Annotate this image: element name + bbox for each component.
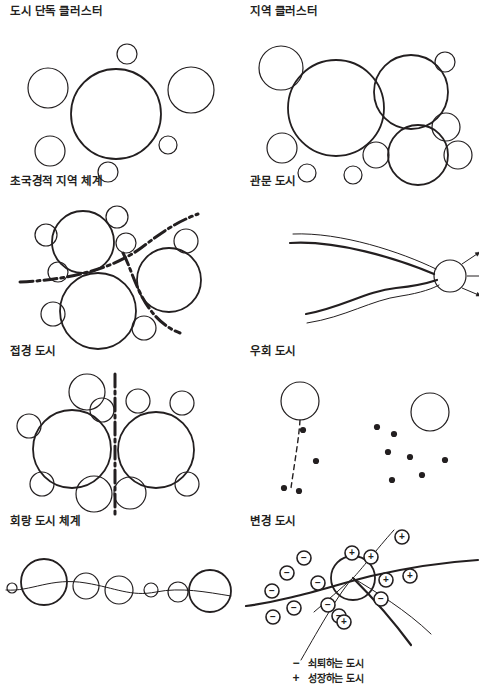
panel-transboundary-regional-system: 초국경적 지역 체계 — [0, 170, 239, 343]
sign-symbol-declining: − — [269, 585, 275, 596]
city-circle-node — [168, 582, 188, 602]
sign-symbol-growing: + — [341, 616, 347, 627]
panel-diagram — [0, 510, 239, 683]
sign-symbol-declining: − — [284, 567, 290, 578]
city-circle-gateway-node — [434, 260, 466, 292]
legend-item: −쇠퇴하는 도시 — [288, 655, 448, 670]
city-circle-primary-city — [137, 248, 201, 312]
city-circle-satellite — [175, 472, 199, 496]
city-circle-primary-city — [52, 211, 114, 273]
city-circle-satellite — [170, 391, 194, 415]
city-circle-satellite — [174, 229, 198, 253]
city-circle-satellite — [126, 389, 150, 413]
settlement-dot — [374, 424, 380, 430]
panel-diagram — [0, 0, 239, 173]
settlement-dot — [281, 485, 287, 491]
settlement-dot — [296, 488, 302, 494]
city-circle-city — [411, 393, 449, 431]
settlement-dot — [313, 458, 319, 464]
panel-corridor-city-system: 회랑 도시 체계 — [0, 510, 239, 683]
city-circle-satellite — [28, 68, 68, 108]
sign-symbol-declining: − — [301, 552, 307, 563]
settlement-dot — [391, 431, 397, 437]
panel-gateway-city: 관문 도시 — [240, 170, 479, 343]
city-circle-satellite — [432, 113, 460, 141]
panel-diagram — [240, 340, 479, 513]
line-link-dashed — [291, 420, 300, 488]
panel-border-city: 접경 도시 — [0, 340, 239, 513]
line-corridor-thin — [307, 285, 439, 323]
legend: −쇠퇴하는 도시+성장하는 도시 — [288, 655, 448, 685]
arrow-head-icon — [475, 252, 479, 256]
line-corridor-thin — [6, 582, 231, 596]
sign-symbol-growing: + — [383, 574, 389, 585]
legend-label: 성장하는 도시 — [308, 670, 363, 685]
line-corridor-thick — [306, 280, 437, 314]
settlement-dot — [442, 457, 448, 463]
city-circle-primary-city — [71, 69, 161, 159]
settlement-dot — [407, 454, 413, 460]
line-route-thick — [353, 578, 411, 645]
city-circle-satellite — [114, 477, 146, 509]
panel-bypassed-city: 우회 도시 — [240, 340, 479, 513]
settlement-dot — [419, 472, 425, 478]
typology-figure: 도시 단독 클러스터지역 클러스터초국경적 지역 체계관문 도시접경 도시우회 … — [0, 0, 479, 691]
city-circle-satellite — [259, 46, 303, 90]
city-circle-satellite — [35, 136, 65, 166]
panel-diagram — [0, 340, 239, 513]
settlement-dot — [300, 427, 306, 433]
city-circle-satellite — [168, 67, 214, 113]
line-route-thin — [353, 578, 431, 634]
sign-symbol-declining: − — [325, 599, 331, 610]
legend-item: +성장하는 도시 — [288, 670, 448, 685]
sign-symbol-growing: + — [399, 531, 405, 542]
city-circle-node — [73, 573, 99, 599]
legend-symbol-icon: + — [288, 672, 304, 684]
legend-label: 쇠퇴하는 도시 — [308, 655, 363, 670]
legend-symbol-icon: − — [288, 657, 304, 669]
sign-symbol-declining: − — [270, 611, 276, 622]
sign-symbol-declining: − — [378, 593, 384, 604]
city-circle-satellite — [363, 142, 389, 168]
city-circle-satellite — [159, 136, 177, 154]
sign-symbol-declining: − — [291, 602, 297, 613]
city-circle-satellite — [41, 302, 65, 326]
sign-symbol-growing: + — [368, 551, 374, 562]
panel-diagram — [240, 170, 479, 343]
panel-diagram — [0, 170, 239, 343]
city-circle-satellite — [69, 374, 105, 410]
panel-urban-single-cluster: 도시 단독 클러스터 — [0, 0, 239, 173]
city-circle-primary-city — [60, 273, 136, 349]
sign-symbol-growing: + — [349, 547, 355, 558]
city-circle-satellite — [117, 44, 137, 64]
city-circle-satellite — [106, 206, 128, 228]
city-circle-satellite — [435, 52, 455, 72]
city-circle-satellite — [132, 316, 156, 340]
settlement-dot — [385, 449, 391, 455]
city-circle-satellite — [267, 133, 297, 163]
city-circle-node — [144, 583, 158, 597]
city-circle-satellite — [17, 414, 41, 438]
city-circle-satellite — [116, 233, 136, 253]
sign-symbol-declining: − — [315, 577, 321, 588]
city-circle-primary-city — [374, 55, 448, 129]
panel-regional-cluster: 지역 클러스터 — [240, 0, 479, 173]
city-circle-node — [7, 583, 17, 593]
city-circle-satellite — [30, 472, 54, 496]
city-circle-city — [281, 382, 319, 420]
panel-diagram — [240, 0, 479, 173]
sign-symbol-growing: + — [407, 570, 413, 581]
settlement-dot — [389, 477, 395, 483]
